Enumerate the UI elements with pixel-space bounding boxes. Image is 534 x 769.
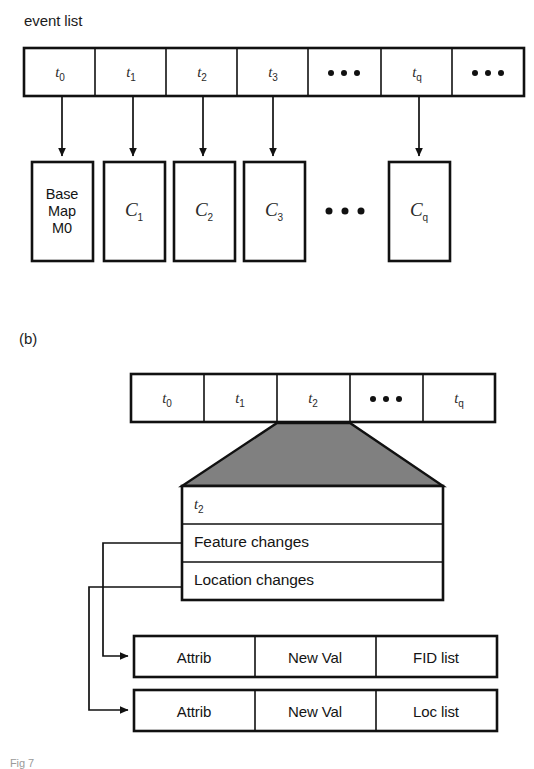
expansion-trapezoid [182,423,443,486]
snapshot-ellipsis [326,208,365,215]
event-cell-t3: t3 [268,64,278,83]
location-record-col-new-val: New Val [288,703,342,720]
panel-b-connectors [89,543,182,710]
detail-box-header: t2 [194,496,204,515]
panel-b-event-cell-t2: t2 [308,390,318,409]
snapshot-c2: C2 [195,199,213,223]
snapshot-cq: Cq [410,199,428,223]
snapshot-c3: C3 [265,199,283,223]
panel-b-letter: (b) [19,330,37,347]
panel-b-event-cell-t1: t1 [235,390,245,409]
figure-caption: Fig 7 [10,757,34,769]
feature-record-col-new-val: New Val [288,649,342,666]
location-record-col-attrib: Attrib [177,703,211,720]
location-record-col-loc-list: Loc list [413,703,459,720]
feature-record-col-fid-list: FID list [413,649,459,666]
feature-record-col-attrib: Attrib [177,649,211,666]
panel-a-connectors [62,96,419,156]
panel-b-event-cell-ellipsis [370,396,402,402]
detail-row-location-changes[interactable]: Location changes [194,571,314,589]
panel-b-event-cell-tq: tq [454,390,464,409]
snapshot-base-map: Base Map M0 [46,186,79,237]
panel-b-event-cell-t0: t0 [162,390,172,409]
event-cell-t0: t0 [55,64,65,83]
snapshot-c1: C1 [125,199,143,223]
event-cell-ellipsis-2 [472,70,504,76]
detail-row-feature-changes[interactable]: Feature changes [194,533,309,551]
panel-a-title: event list [24,12,82,29]
event-cell-t2: t2 [197,64,207,83]
event-cell-t1: t1 [126,64,136,83]
panel-a-snapshot-boxes [32,162,450,261]
event-cell-tq: tq [412,64,422,83]
event-cell-ellipsis-1 [328,70,360,76]
